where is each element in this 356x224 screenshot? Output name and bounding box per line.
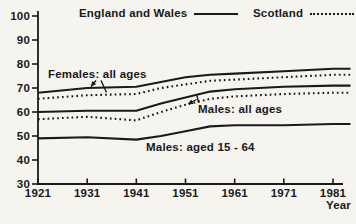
solid-line-sample-icon: [194, 13, 238, 15]
annotation-males-all-ages: Males: all ages: [198, 103, 282, 115]
leader-males-solid: [197, 96, 199, 103]
y-tick-label: 80: [17, 58, 30, 70]
x-tick-label: 1941: [123, 187, 150, 199]
legend-item-england-and-wales: England and Wales: [79, 7, 238, 19]
annotation-males-aged-15-64: Males: aged 15 - 64: [146, 141, 255, 153]
y-tick-label: 100: [10, 10, 30, 22]
legend-label-england-and-wales: England and Wales: [79, 7, 187, 19]
y-tick-label: 60: [17, 106, 30, 118]
dotted-line-sample-icon: [310, 13, 354, 15]
x-tick-label: 1981: [320, 187, 347, 199]
y-tick-label: 70: [17, 82, 30, 94]
x-tick-label: 1951: [172, 187, 199, 199]
series-line-males-all-ages-scotland: [38, 93, 351, 121]
annotation-females-all-ages: Females: all ages: [48, 68, 147, 80]
legend-label-scotland: Scotland: [253, 7, 303, 19]
life-expectancy-figure: 1009080706050403019211931194119511961197…: [0, 0, 356, 224]
x-tick-label: 1971: [271, 187, 298, 199]
x-tick-label: 1921: [25, 187, 52, 199]
x-tick-label: 1931: [74, 187, 101, 199]
y-tick-label: 50: [17, 130, 30, 142]
x-tick-label: 1961: [221, 187, 248, 199]
y-tick-label: 40: [17, 154, 30, 166]
chart-canvas: 1009080706050403019211931194119511961197…: [0, 0, 356, 224]
y-tick-label: 90: [17, 34, 30, 46]
x-axis-title: Year: [326, 199, 351, 211]
series-line-males-all-ages-england-and-wales: [38, 86, 351, 112]
legend-item-scotland: Scotland: [253, 7, 354, 19]
series-line-males-aged-15-64-england-and-wales: [38, 124, 351, 140]
